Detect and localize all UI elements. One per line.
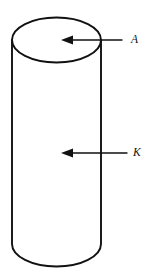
cylinder-figure: A K [0, 0, 159, 271]
figure-canvas: A K [0, 0, 159, 271]
label-k: K [132, 146, 142, 158]
label-a: A [130, 33, 139, 45]
